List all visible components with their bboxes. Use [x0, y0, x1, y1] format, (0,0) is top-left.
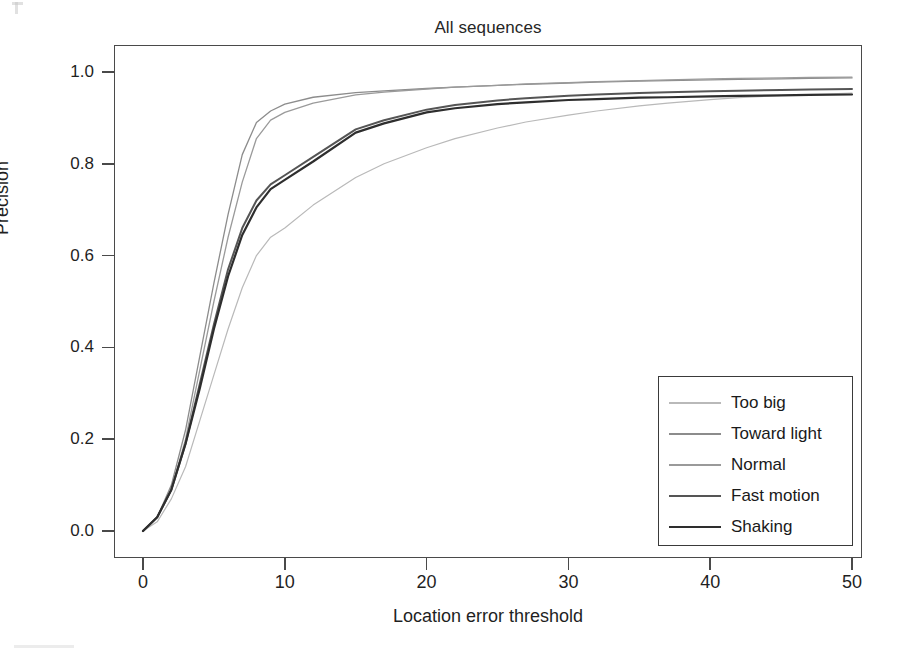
x-tick-mark: [142, 558, 144, 570]
legend-item-normal[interactable]: Normal: [659, 448, 852, 482]
chart-title: All sequences: [114, 18, 862, 38]
x-tick-mark: [568, 558, 570, 570]
y-axis-title: Precision: [0, 161, 13, 235]
legend-item-label: Toward light: [731, 424, 822, 444]
x-tick-label: 10: [255, 572, 315, 593]
legend-line-swatch: [669, 495, 721, 497]
x-tick-label: 50: [822, 572, 882, 593]
legend-item-toward-light[interactable]: Toward light: [659, 417, 852, 451]
x-tick-mark: [709, 558, 711, 570]
y-tick-mark: [102, 71, 114, 73]
legend-item-label: Normal: [731, 455, 786, 475]
legend-item-too-big[interactable]: Too big: [659, 386, 852, 420]
legend-line-swatch: [669, 526, 721, 528]
legend-item-label: Too big: [731, 393, 786, 413]
y-tick-label: 0.8: [42, 154, 94, 174]
y-tick-label: 0.0: [42, 521, 94, 541]
legend-item-shaking[interactable]: Shaking: [659, 510, 852, 544]
legend-item-label: Fast motion: [731, 486, 820, 506]
legend-line-swatch: [669, 433, 721, 434]
x-tick-mark: [426, 558, 428, 570]
y-tick-mark: [102, 438, 114, 440]
y-tick-label: 0.4: [42, 337, 94, 357]
x-tick-label: 0: [113, 572, 173, 593]
figure-canvas: All sequences Precision 0.00.20.40.60.81…: [0, 0, 897, 655]
scan-artifact-mark: [15, 2, 18, 14]
x-tick-label: 40: [680, 572, 740, 593]
y-tick-mark: [102, 163, 114, 165]
legend-line-swatch: [669, 402, 721, 403]
y-tick-mark: [102, 255, 114, 257]
legend-line-swatch: [669, 464, 721, 465]
x-tick-label: 20: [397, 572, 457, 593]
legend-item-fast-motion[interactable]: Fast motion: [659, 479, 852, 513]
y-tick-label: 0.6: [42, 246, 94, 266]
legend-item-label: Shaking: [731, 517, 792, 537]
chart-legend[interactable]: Too bigToward lightNormalFast motionShak…: [658, 376, 853, 546]
x-tick-mark: [284, 558, 286, 570]
x-tick-label: 30: [538, 572, 598, 593]
x-tick-mark: [851, 558, 853, 570]
x-axis-title: Location error threshold: [114, 606, 862, 627]
scan-artifact-mark: [14, 645, 74, 648]
y-tick-mark: [102, 530, 114, 532]
y-tick-mark: [102, 347, 114, 349]
y-tick-label: 1.0: [42, 62, 94, 82]
y-tick-label: 0.2: [42, 429, 94, 449]
